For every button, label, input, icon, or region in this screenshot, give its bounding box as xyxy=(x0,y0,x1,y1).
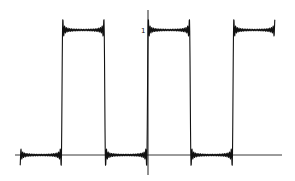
fourier-square-wave-curve xyxy=(20,20,275,165)
square-wave-plot: 1 xyxy=(0,0,295,181)
y-tick-label-one: 1 xyxy=(141,27,145,35)
